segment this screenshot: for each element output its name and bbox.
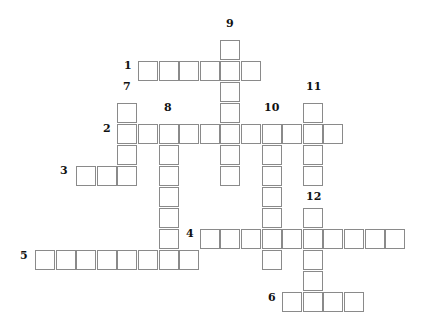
crossword-cell[interactable] — [200, 61, 220, 81]
crossword-cell[interactable] — [262, 145, 282, 165]
clue-number-8: 8 — [164, 102, 172, 113]
crossword-cell[interactable] — [220, 82, 240, 102]
crossword-cell[interactable] — [117, 166, 137, 186]
clue-number-10: 10 — [264, 102, 279, 113]
crossword-cell[interactable] — [138, 124, 158, 144]
crossword-cell[interactable] — [159, 145, 179, 165]
crossword-cell[interactable] — [220, 229, 240, 249]
crossword-cell[interactable] — [159, 208, 179, 228]
crossword-cell[interactable] — [220, 61, 240, 81]
crossword-cell[interactable] — [282, 124, 302, 144]
crossword-cell[interactable] — [262, 166, 282, 186]
crossword-cell[interactable] — [117, 124, 137, 144]
crossword-cell[interactable] — [159, 229, 179, 249]
crossword-cell[interactable] — [323, 292, 343, 312]
crossword-cell[interactable] — [220, 166, 240, 186]
crossword-cell[interactable] — [303, 145, 323, 165]
crossword-cell[interactable] — [303, 166, 323, 186]
clue-number-11: 11 — [306, 81, 321, 92]
crossword-cell[interactable] — [179, 124, 199, 144]
crossword-cell[interactable] — [262, 250, 282, 270]
crossword-cell[interactable] — [138, 61, 158, 81]
crossword-cell[interactable] — [344, 292, 364, 312]
crossword-cell[interactable] — [117, 250, 137, 270]
crossword-cell[interactable] — [159, 166, 179, 186]
crossword-cell[interactable] — [159, 187, 179, 207]
clue-number-5: 5 — [20, 250, 28, 261]
crossword-cell[interactable] — [262, 187, 282, 207]
clue-number-3: 3 — [60, 165, 68, 176]
crossword-cell[interactable] — [303, 103, 323, 123]
crossword-cell[interactable] — [179, 61, 199, 81]
crossword-cell[interactable] — [344, 229, 364, 249]
crossword-cell[interactable] — [117, 145, 137, 165]
crossword-cell[interactable] — [303, 208, 323, 228]
crossword-cell[interactable] — [220, 103, 240, 123]
crossword-cell[interactable] — [159, 61, 179, 81]
crossword-cell[interactable] — [97, 166, 117, 186]
crossword-cell[interactable] — [262, 229, 282, 249]
clue-number-9: 9 — [226, 18, 234, 29]
crossword-cell[interactable] — [323, 229, 343, 249]
crossword-cell[interactable] — [241, 229, 261, 249]
crossword-cell[interactable] — [200, 124, 220, 144]
crossword-cell[interactable] — [303, 124, 323, 144]
crossword-cell[interactable] — [56, 250, 76, 270]
crossword-cell[interactable] — [76, 250, 96, 270]
clue-number-2: 2 — [103, 123, 111, 134]
crossword-cell[interactable] — [35, 250, 55, 270]
crossword-cell[interactable] — [303, 229, 323, 249]
crossword-cell[interactable] — [220, 124, 240, 144]
crossword-cell[interactable] — [138, 250, 158, 270]
clue-number-7: 7 — [123, 81, 131, 92]
crossword-cell[interactable] — [365, 229, 385, 249]
crossword-cell[interactable] — [282, 229, 302, 249]
crossword-cell[interactable] — [76, 166, 96, 186]
crossword-cell[interactable] — [97, 250, 117, 270]
clue-number-6: 6 — [268, 292, 276, 303]
crossword-cell[interactable] — [159, 250, 179, 270]
crossword-cell[interactable] — [241, 124, 261, 144]
crossword-cell[interactable] — [220, 40, 240, 60]
crossword-cell[interactable] — [220, 145, 240, 165]
clue-number-1: 1 — [124, 60, 132, 71]
crossword-cell[interactable] — [303, 271, 323, 291]
crossword-cell[interactable] — [282, 292, 302, 312]
crossword-grid: 123456789101112 — [0, 0, 431, 327]
crossword-cell[interactable] — [262, 208, 282, 228]
clue-number-4: 4 — [186, 228, 194, 239]
crossword-cell[interactable] — [323, 124, 343, 144]
crossword-cell[interactable] — [385, 229, 405, 249]
crossword-cell[interactable] — [303, 250, 323, 270]
crossword-cell[interactable] — [159, 124, 179, 144]
crossword-cell[interactable] — [262, 124, 282, 144]
crossword-cell[interactable] — [200, 229, 220, 249]
crossword-cell[interactable] — [303, 292, 323, 312]
crossword-cell[interactable] — [241, 61, 261, 81]
clue-number-12: 12 — [306, 191, 321, 202]
crossword-cell[interactable] — [179, 250, 199, 270]
crossword-cell[interactable] — [117, 103, 137, 123]
